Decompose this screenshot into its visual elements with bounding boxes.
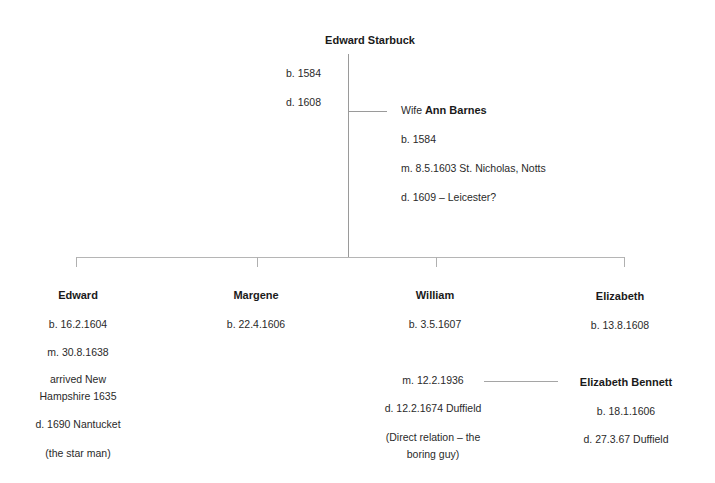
child-died: d. 12.2.1674 Duffield bbox=[385, 402, 482, 414]
child-died: d. 1690 Nantucket bbox=[35, 418, 120, 430]
spouse-name-line: Wife Ann Barnes bbox=[401, 104, 487, 116]
william-spouse-born: b. 18.1.1606 bbox=[597, 405, 655, 417]
child-born: b. 13.8.1608 bbox=[591, 319, 649, 331]
child-tick-margene bbox=[257, 257, 258, 267]
william-spouse-name: Elizabeth Bennett bbox=[580, 376, 672, 388]
child-born: b. 22.4.1606 bbox=[227, 318, 285, 330]
child-note: boring guy) bbox=[407, 448, 460, 460]
root-died: d. 1608 bbox=[286, 96, 321, 108]
child-name: Edward bbox=[58, 289, 98, 301]
spouse-died: d. 1609 – Leicester? bbox=[401, 191, 496, 203]
root-born: b. 1584 bbox=[286, 67, 321, 79]
child-married: m. 30.8.1638 bbox=[47, 346, 108, 358]
child-name: Margene bbox=[233, 289, 278, 301]
child-tick-elizabeth bbox=[624, 257, 625, 267]
spouse-connector-line bbox=[349, 111, 387, 112]
child-married: m. 12.2.1936 bbox=[402, 374, 463, 386]
child-note: arrived New bbox=[50, 373, 106, 385]
child-born: b. 3.5.1607 bbox=[409, 318, 462, 330]
siblings-horizontal-line bbox=[76, 257, 625, 258]
william-spouse-died: d. 27.3.67 Duffield bbox=[583, 433, 668, 445]
child-note: Hampshire 1635 bbox=[39, 390, 116, 402]
root-name: Edward Starbuck bbox=[325, 34, 415, 46]
spouse-prefix: Wife bbox=[401, 104, 425, 116]
child-note: (Direct relation – the bbox=[386, 431, 481, 443]
spouse-born: b. 1584 bbox=[401, 133, 436, 145]
william-marriage-line bbox=[484, 381, 558, 382]
child-name: William bbox=[416, 289, 454, 301]
child-nickname: (the star man) bbox=[45, 447, 110, 459]
child-tick-edward bbox=[76, 257, 77, 267]
spouse-name: Ann Barnes bbox=[425, 104, 487, 116]
child-name: Elizabeth bbox=[596, 290, 644, 302]
child-tick-william bbox=[436, 257, 437, 267]
child-born: b. 16.2.1604 bbox=[49, 318, 107, 330]
root-vertical-line bbox=[348, 54, 349, 258]
spouse-married: m. 8.5.1603 St. Nicholas, Notts bbox=[401, 162, 546, 174]
